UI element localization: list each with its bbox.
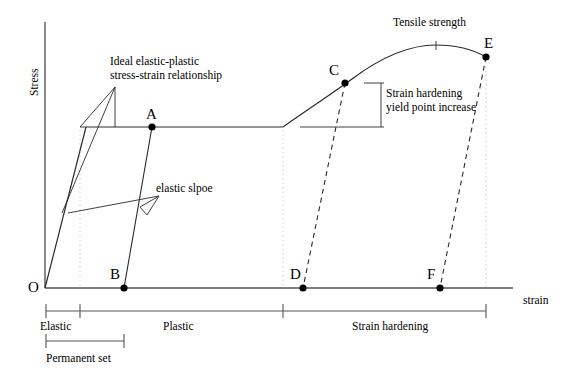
annotation-elastic-slope: elastic slpoe	[156, 182, 213, 196]
yield-increase-bracket	[300, 83, 384, 127]
point-label-a: A	[146, 106, 157, 124]
region-label-strain-hardening: Strain hardening	[352, 320, 428, 334]
figure-canvas	[0, 0, 564, 379]
annotation-strain-hardening-increase: Strain hardening yield point increase	[386, 87, 476, 114]
stress-strain-figure: Stress strain O A B C D E F Ideal elasti…	[0, 0, 564, 379]
unload-line-a-b	[124, 127, 152, 288]
annotation-tensile-strength: Tensile strength	[393, 16, 466, 30]
point-label-f: F	[427, 266, 435, 284]
curve-strain-hardening	[283, 45, 486, 127]
dot-f	[436, 284, 443, 291]
region-label-plastic: Plastic	[163, 320, 194, 334]
point-label-e: E	[484, 35, 493, 53]
ideal-elastic-line	[62, 87, 115, 213]
curve-elastic-rise	[45, 127, 86, 288]
point-label-d: D	[290, 266, 301, 284]
x-axis-label: strain	[523, 294, 549, 308]
unload-line-c-d	[303, 83, 345, 288]
dot-d	[299, 284, 306, 291]
elastic-slope-leader	[68, 196, 159, 215]
dot-b	[120, 284, 127, 291]
y-axis-label: Stress	[28, 69, 42, 96]
region-label-permanent-set: Permanent set	[46, 352, 111, 366]
region-label-elastic: Elastic	[40, 320, 71, 334]
point-label-c: C	[329, 62, 339, 80]
annotation-ideal-elastic-plastic: Ideal elastic-plastic stress-strain rela…	[110, 55, 222, 82]
ideal-elastic-plastic-line	[62, 87, 115, 213]
dot-a	[148, 123, 155, 130]
point-label-o: O	[28, 279, 39, 297]
elastic-slope-leader-line	[68, 196, 159, 213]
dot-c	[341, 79, 348, 86]
point-label-b: B	[110, 266, 120, 284]
dot-e	[482, 53, 489, 60]
